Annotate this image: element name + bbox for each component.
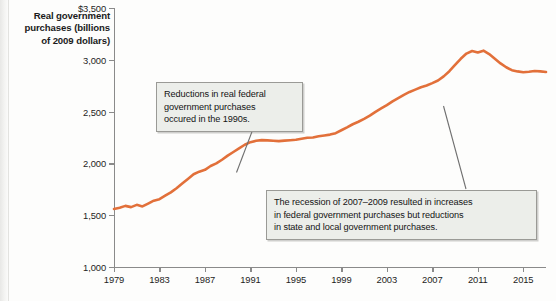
y-axis-tick-label: $3,500 [78,3,106,14]
chart-figure: Real government purchases (billions of 2… [0,0,556,301]
y-axis-title-line-3: of 2009 dollars) [41,35,110,46]
x-axis-tick-label: 2007 [422,274,442,285]
annotation-recession-line-1: The recession of 2007–2009 resulted in i… [274,196,529,209]
x-axis-tick [432,267,433,272]
x-axis-tick-label: 2011 [468,274,488,285]
x-axis-tick [159,267,160,272]
x-axis-tick-label: 1987 [195,274,215,285]
y-axis-tick-label: 1,000 [83,262,106,273]
y-axis-tick-label: 3,000 [83,54,106,65]
x-axis-tick [523,267,524,272]
y-axis-title: Real government purchases (billions of 2… [6,10,110,47]
annotation-1990s-line-1: Reductions in real federal [164,88,295,101]
x-axis-tick-label: 2003 [377,274,397,285]
y-axis-tick-label: 2,500 [83,106,106,117]
x-axis-tick-label: 1995 [286,274,306,285]
y-axis-title-line-2: purchases (billions [24,22,110,33]
annotation-1990s-line-3: occured in the 1990s. [164,113,295,126]
x-axis-tick-label: 2015 [513,274,533,285]
x-axis-tick [387,267,388,272]
y-axis-tick-label: 1,500 [83,210,106,221]
annotation-recession-line-3: in state and local government purchases. [274,221,529,234]
x-axis-tick-label: 1999 [331,274,351,285]
y-axis-tick-label: 2,000 [83,158,106,169]
x-axis-tick [205,267,206,272]
x-axis-tick [341,267,342,272]
x-axis-tick-label: 1983 [149,274,169,285]
annotation-callout-1990s: Reductions in real federal government pu… [156,82,303,132]
x-axis-tick-label: 1991 [240,274,260,285]
x-axis-tick [296,267,297,272]
annotation-callout-recession: The recession of 2007–2009 resulted in i… [266,190,537,240]
x-axis-tick [250,267,251,272]
annotation-1990s-line-2: government purchases [164,101,295,114]
annotation-recession-line-2: in federal government purchases but redu… [274,209,529,222]
x-axis-tick [478,267,479,272]
x-axis-tick-label: 1979 [104,274,124,285]
x-axis-line [114,267,546,268]
x-axis-tick [114,267,115,272]
